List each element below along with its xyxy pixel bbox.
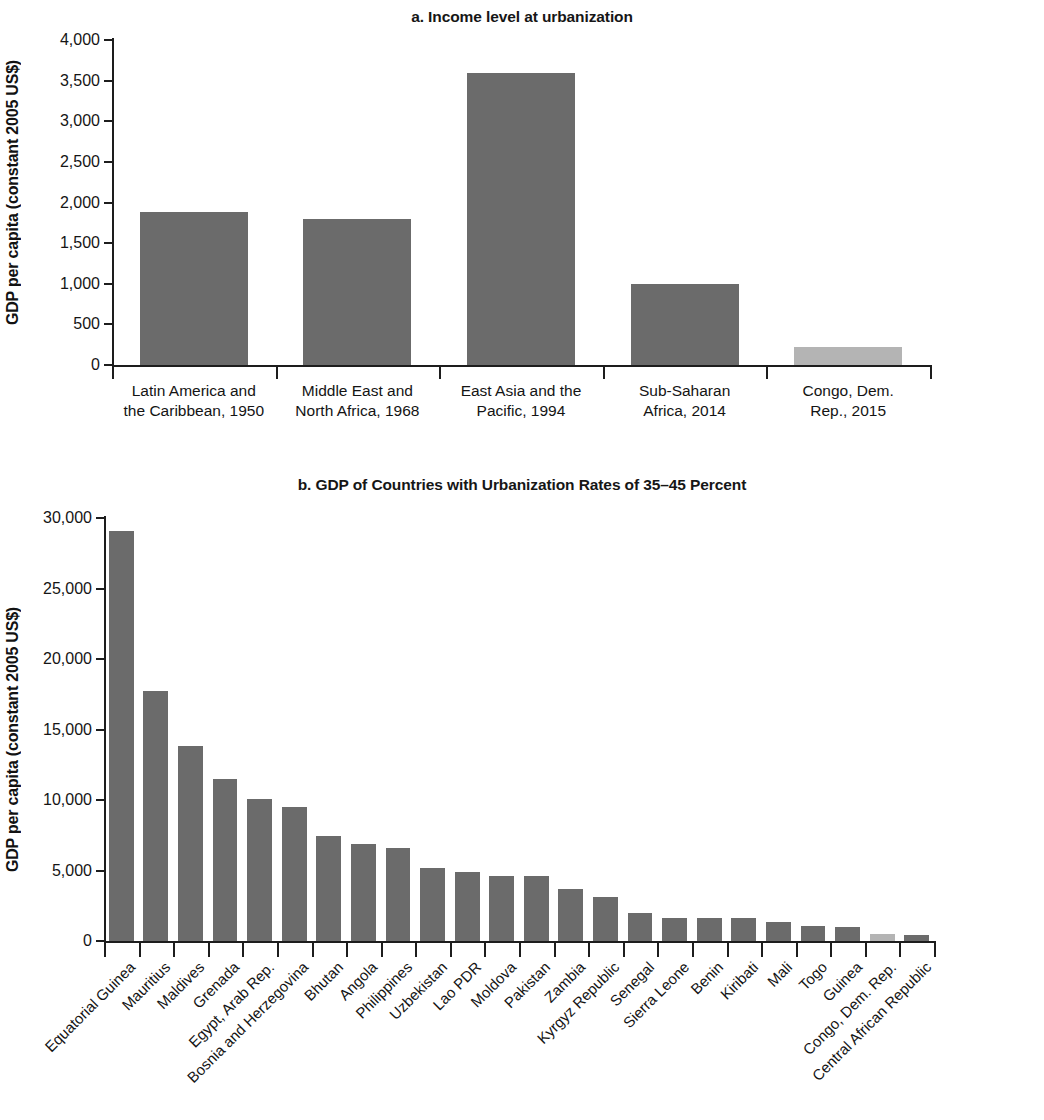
x-tick-mark — [381, 943, 383, 957]
x-tick-mark — [415, 943, 417, 957]
bar — [697, 918, 722, 941]
x-tick-mark — [104, 943, 106, 957]
figure-container: a. Income level at urbanization GDP per … — [0, 0, 1044, 1120]
bar — [316, 836, 341, 941]
x-tick-mark — [796, 943, 798, 957]
y-tick-label: 500 — [0, 316, 100, 332]
y-tick-mark — [104, 242, 112, 244]
x-axis-category-label: Middle East andNorth Africa, 1968 — [276, 381, 440, 421]
bar — [801, 926, 826, 941]
x-axis-category-label: Latin America andthe Caribbean, 1950 — [112, 381, 276, 421]
x-axis-category-label-line: Congo, Dem. — [766, 381, 930, 401]
y-tick-label: 3,500 — [0, 73, 100, 89]
x-axis-category-label-line: the Caribbean, 1950 — [112, 401, 276, 421]
y-tick-mark — [104, 161, 112, 163]
x-tick-mark — [173, 943, 175, 957]
x-tick-mark — [657, 943, 659, 957]
x-tick-mark — [346, 943, 348, 957]
x-tick-mark — [865, 943, 867, 957]
bar — [420, 868, 445, 941]
chart-panel-a: a. Income level at urbanization GDP per … — [0, 0, 1044, 455]
bar — [143, 691, 168, 941]
x-axis-category-label-line: Pacific, 1994 — [439, 401, 603, 421]
y-tick-label: 1,000 — [0, 276, 100, 292]
x-axis-category-label: Sub-SaharanAfrica, 2014 — [603, 381, 767, 421]
y-tick-mark — [104, 364, 112, 366]
x-tick-mark — [692, 943, 694, 957]
x-tick-mark — [899, 943, 901, 957]
y-tick-label: 2,500 — [0, 154, 100, 170]
y-tick-mark — [104, 120, 112, 122]
bar — [524, 876, 549, 941]
y-tick-label: 4,000 — [0, 32, 100, 48]
x-tick-mark — [830, 943, 832, 957]
x-axis-category-label-line: Latin America and — [112, 381, 276, 401]
x-tick-mark — [139, 943, 141, 957]
y-tick-mark — [104, 283, 112, 285]
x-tick-mark — [208, 943, 210, 957]
bar — [140, 212, 248, 365]
bar — [631, 284, 739, 365]
bar — [303, 219, 411, 365]
y-tick-mark — [96, 517, 104, 519]
panel-b-y-axis-label: GDP per capita (constant 2005 US$) — [4, 530, 22, 950]
x-tick-mark — [439, 367, 441, 379]
y-tick-mark — [104, 323, 112, 325]
x-tick-mark — [603, 367, 605, 379]
y-tick-label: 2,000 — [0, 195, 100, 211]
x-tick-mark — [312, 943, 314, 957]
x-axis-category-label-line: Rep., 2015 — [766, 401, 930, 421]
y-tick-label: 1,500 — [0, 235, 100, 251]
y-tick-mark — [104, 80, 112, 82]
bar — [467, 73, 575, 366]
bar — [213, 779, 238, 941]
bar — [386, 848, 411, 941]
x-axis-category-label-line: Middle East and — [276, 381, 440, 401]
y-tick-label: 30,000 — [0, 510, 92, 526]
x-tick-mark — [242, 943, 244, 957]
x-tick-mark — [766, 367, 768, 379]
x-tick-mark — [934, 943, 936, 957]
y-tick-mark — [96, 729, 104, 731]
bar — [109, 531, 134, 941]
y-tick-mark — [96, 940, 104, 942]
bar — [794, 347, 902, 365]
x-axis-category-label-line: Sub-Saharan — [603, 381, 767, 401]
y-tick-mark — [96, 799, 104, 801]
panel-a-title: a. Income level at urbanization — [0, 8, 1044, 26]
x-tick-mark — [727, 943, 729, 957]
x-tick-mark — [519, 943, 521, 957]
y-tick-mark — [104, 39, 112, 41]
x-axis-category-label-line: North Africa, 1968 — [276, 401, 440, 421]
x-axis-line — [112, 365, 932, 367]
x-axis-category-label-line: East Asia and the — [439, 381, 603, 401]
bar — [731, 918, 756, 941]
bar — [455, 872, 480, 941]
x-tick-mark — [277, 943, 279, 957]
x-axis-category-label-line: Africa, 2014 — [603, 401, 767, 421]
y-axis-line — [104, 516, 106, 943]
y-tick-mark — [96, 588, 104, 590]
x-tick-mark — [112, 367, 114, 379]
bar — [282, 807, 307, 941]
x-tick-mark — [554, 943, 556, 957]
x-tick-mark — [450, 943, 452, 957]
bar — [489, 876, 514, 941]
x-tick-mark — [484, 943, 486, 957]
y-tick-mark — [96, 870, 104, 872]
x-tick-mark — [761, 943, 763, 957]
bar — [766, 922, 791, 941]
y-axis-line — [112, 38, 114, 367]
x-axis-category-label: East Asia and thePacific, 1994 — [439, 381, 603, 421]
panel-b-title: b. GDP of Countries with Urbanization Ra… — [0, 476, 1044, 494]
x-tick-mark — [623, 943, 625, 957]
bar — [178, 746, 203, 941]
y-tick-label: 0 — [0, 357, 100, 373]
bar — [558, 889, 583, 941]
x-tick-mark — [276, 367, 278, 379]
y-tick-label: 3,000 — [0, 113, 100, 129]
bar — [870, 934, 895, 941]
bar — [247, 799, 272, 941]
x-axis-category-label: Congo, Dem.Rep., 2015 — [766, 381, 930, 421]
bar — [835, 927, 860, 941]
